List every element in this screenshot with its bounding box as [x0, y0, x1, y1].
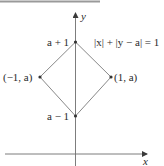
diamond-diagram: y x a + 1 |x| + |y − a| = 1 (−1, a) (1, … [0, 0, 164, 166]
vertex-top-dot [74, 40, 77, 43]
vertex-bottom-dot [74, 114, 77, 117]
y-axis-label: y [80, 10, 86, 22]
vertex-left-dot [38, 75, 41, 78]
vertex-left-label: (−1, a) [3, 71, 33, 84]
vertex-right-dot [109, 75, 112, 78]
equation-label: |x| + |y − a| = 1 [94, 36, 159, 48]
vertex-right-label: (1, a) [114, 71, 138, 84]
vertex-bottom-label: a − 1 [47, 110, 69, 122]
x-axis-label: x [142, 155, 148, 166]
vertex-top-label: a + 1 [47, 36, 69, 48]
